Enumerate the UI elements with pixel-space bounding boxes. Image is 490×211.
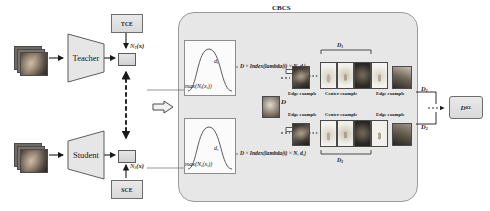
into-cbcs-arrow-icon	[152, 100, 174, 118]
output-branch-top-label: D1	[421, 86, 428, 93]
row-bottom-center-example-3	[354, 120, 371, 147]
row-top-center-example-3	[354, 62, 371, 89]
formula-bottom: D×Index(lambda(t)×N, ds)	[240, 151, 306, 157]
row-bottom-edge-left-example	[292, 123, 310, 146]
output-top-sub: 1	[426, 88, 428, 93]
student-output-tail: (x)	[136, 162, 144, 169]
teacher-encoder-label: Teacher	[66, 32, 106, 84]
formula-top-fn: Index(	[250, 63, 265, 69]
row-bottom-edge-right-example	[392, 123, 412, 146]
row-top-edge-left-example	[292, 66, 310, 89]
row-bottom-center-example-2	[337, 120, 354, 147]
formula-bot-lambda: lambda(t)	[265, 150, 287, 156]
row-top-caption-left: Edge example	[288, 92, 317, 97]
row-top-edge-right-example	[392, 66, 412, 89]
teacher-confidence-label: max(Nt(xi))	[185, 83, 212, 91]
s-max-fn: max(	[185, 161, 197, 167]
row-bottom-caption-left: Edge example	[288, 113, 317, 118]
row-top-bracket-sub: 1	[341, 45, 343, 49]
dataset-thumbnail	[262, 96, 280, 118]
student-confidence-label: max(Ns(xi))	[185, 161, 212, 169]
row-bottom-center-example-4	[371, 120, 388, 147]
output-branch-bottom-label: D2	[421, 124, 428, 131]
dt-axis-sub: t	[217, 61, 218, 65]
formula-bot-close: )	[304, 150, 306, 156]
ds-axis-sub: s	[217, 148, 218, 152]
row-bottom-caption-center: Center example	[325, 113, 357, 118]
row-top-caption-center: Center example	[325, 92, 357, 97]
row-bottom-center-example-1	[320, 120, 337, 147]
cbcs-title: CBCS	[272, 5, 291, 12]
row-bottom-bracket-sub: 2	[341, 160, 343, 164]
sce-loss-label: SCE	[121, 187, 132, 193]
row-top-caption-right: Edge example	[376, 92, 405, 97]
t-max-tail: ))	[208, 83, 212, 89]
sce-loss-box[interactable]: SCE	[111, 180, 143, 199]
row-bottom-bracket-label: D2	[337, 157, 343, 165]
teacher-output-tail: (x)	[137, 42, 145, 49]
student-output-label: NS(x)	[130, 163, 144, 170]
dt-axis-label: dt	[214, 58, 218, 66]
row-top-center-example-4	[371, 62, 388, 89]
teacher-output-label: NT(x)	[130, 43, 144, 50]
ds-axis-label: ds	[214, 145, 218, 153]
student-encoder[interactable]: Student	[66, 129, 106, 181]
output-bot-sub: 2	[426, 126, 428, 131]
teacher-encoder[interactable]: Teacher	[66, 32, 106, 84]
t-max-fn: max(	[185, 83, 197, 89]
kl-box-sub: KL	[466, 105, 472, 110]
row-top-center-example-1	[320, 62, 337, 89]
teacher-feature-box	[118, 53, 136, 66]
kl-divergence-box[interactable]: DKL	[449, 96, 483, 119]
row-top-bracket-label: D1	[337, 42, 343, 50]
formula-bot-fn: Index(	[250, 150, 265, 156]
tce-loss-label: TCE	[121, 21, 133, 27]
row-top-center-example-2	[337, 62, 354, 89]
dataset-label: D	[281, 99, 286, 106]
student-encoder-label: Student	[66, 129, 106, 181]
tce-loss-box[interactable]: TCE	[111, 14, 143, 33]
row-bottom-caption-right: Edge example	[376, 113, 405, 118]
figure-canvas: CBCS	[0, 0, 490, 211]
s-max-tail: ))	[208, 161, 212, 167]
